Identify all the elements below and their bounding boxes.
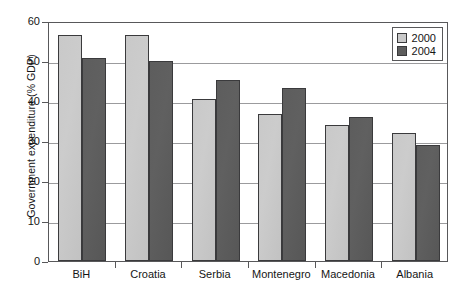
x-tick-label-croatia: Croatia bbox=[130, 268, 165, 280]
y-tick-label: 30 bbox=[0, 135, 40, 147]
bar-croatia-2004 bbox=[149, 61, 173, 261]
legend-label-2004: 2004 bbox=[412, 45, 436, 57]
x-tick-label-albania: Albania bbox=[396, 268, 433, 280]
x-tick bbox=[248, 262, 249, 268]
x-tick-label-serbia: Serbia bbox=[199, 268, 231, 280]
bar-macedonia-2000 bbox=[325, 125, 349, 261]
x-tick-label-macedonia: Macedonia bbox=[321, 268, 375, 280]
y-tick-label: 20 bbox=[0, 175, 40, 187]
x-tick-label-montenegro: Montenegro bbox=[252, 268, 311, 280]
x-tick bbox=[181, 262, 182, 268]
bar-serbia-2004 bbox=[216, 80, 240, 261]
x-tick bbox=[381, 262, 382, 268]
bar-montenegro-2000 bbox=[258, 114, 282, 261]
bar-montenegro-2004 bbox=[282, 88, 306, 261]
bar-serbia-2000 bbox=[192, 99, 216, 261]
bar-albania-2004 bbox=[416, 145, 440, 261]
legend-swatch-icon-2004 bbox=[397, 46, 407, 56]
y-tick-label: 0 bbox=[0, 255, 40, 267]
y-tick-label: 60 bbox=[0, 15, 40, 27]
bars-layer bbox=[49, 23, 447, 261]
y-tick-label: 40 bbox=[0, 95, 40, 107]
y-tick-label: 50 bbox=[0, 55, 40, 67]
bar-croatia-2000 bbox=[125, 35, 149, 261]
legend: 2000 2004 bbox=[392, 27, 443, 61]
y-tick bbox=[42, 262, 48, 263]
bar-bih-2000 bbox=[58, 35, 82, 261]
x-tick bbox=[315, 262, 316, 268]
legend-label-2000: 2000 bbox=[412, 32, 436, 44]
bar-bih-2004 bbox=[82, 58, 106, 261]
bar-chart: Government expenditure (% GDP) 010203040… bbox=[0, 0, 467, 292]
bar-albania-2000 bbox=[392, 133, 416, 261]
legend-item-2000: 2000 bbox=[397, 31, 436, 44]
y-tick-label: 10 bbox=[0, 215, 40, 227]
plot-area: 2000 2004 bbox=[48, 22, 448, 262]
x-tick bbox=[115, 262, 116, 268]
legend-item-2004: 2004 bbox=[397, 44, 436, 57]
bar-macedonia-2004 bbox=[349, 117, 373, 261]
x-tick-label-bih: BiH bbox=[72, 268, 90, 280]
legend-swatch-icon-2000 bbox=[397, 33, 407, 43]
